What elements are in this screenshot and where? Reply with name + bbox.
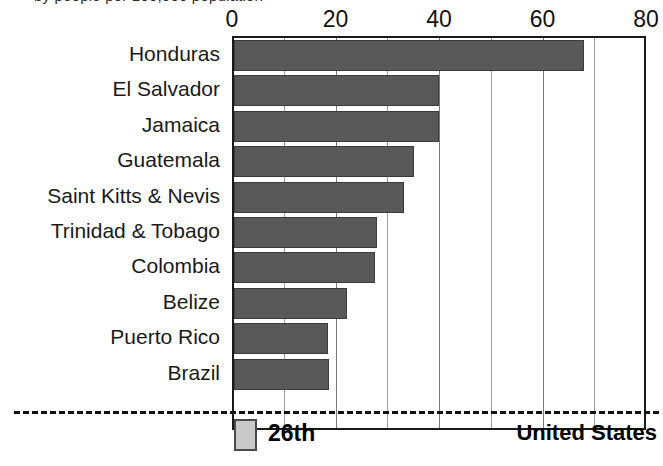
- bar-row: [234, 288, 644, 319]
- bar-series: [234, 38, 644, 392]
- category-label: Trinidad & Tobago: [51, 215, 220, 246]
- category-label: Belize: [163, 286, 220, 317]
- x-tick-label: 60: [530, 6, 556, 32]
- bar-row: [234, 146, 644, 177]
- category-label: Brazil: [167, 357, 220, 388]
- bar-row: [234, 323, 644, 354]
- highlight-bar: [234, 419, 257, 451]
- x-axis-tick-labels: 020406080: [232, 6, 646, 32]
- bar: [234, 252, 375, 283]
- bar: [234, 323, 328, 354]
- category-label: Colombia: [131, 250, 220, 281]
- category-label: Honduras: [129, 38, 220, 69]
- category-labels: HondurasEl SalvadorJamaicaGuatemalaSaint…: [0, 36, 226, 390]
- plot-area: [232, 36, 646, 430]
- bar-row: [234, 182, 644, 213]
- bar-row: [234, 111, 644, 142]
- bar: [234, 111, 439, 142]
- bar: [234, 40, 584, 71]
- caption-fragment: by people per 100,000 population: [34, 0, 454, 5]
- highlight-category-label: United States: [516, 415, 657, 451]
- bar: [234, 146, 414, 177]
- x-tick-label: 0: [226, 6, 239, 32]
- bar: [234, 359, 329, 390]
- category-label: El Salvador: [113, 73, 220, 104]
- x-tick-label: 40: [426, 6, 452, 32]
- bar-row: [234, 75, 644, 106]
- bar-row: [234, 359, 644, 390]
- category-label: Puerto Rico: [110, 321, 220, 352]
- bar: [234, 217, 377, 248]
- x-tick-label: 80: [633, 6, 659, 32]
- bar-row: [234, 40, 644, 71]
- bar: [234, 182, 404, 213]
- category-label: Guatemala: [117, 144, 220, 175]
- bar-row: [234, 217, 644, 248]
- bar: [234, 288, 347, 319]
- category-label: Jamaica: [142, 109, 220, 140]
- bar: [234, 75, 439, 106]
- category-label: Saint Kitts & Nevis: [47, 180, 220, 211]
- dashed-separator: [14, 411, 659, 414]
- bar-chart: by people per 100,000 population 0204060…: [0, 0, 663, 466]
- bar-row: [234, 252, 644, 283]
- highlight-rank-label: 26th: [268, 415, 315, 451]
- x-tick-label: 20: [323, 6, 349, 32]
